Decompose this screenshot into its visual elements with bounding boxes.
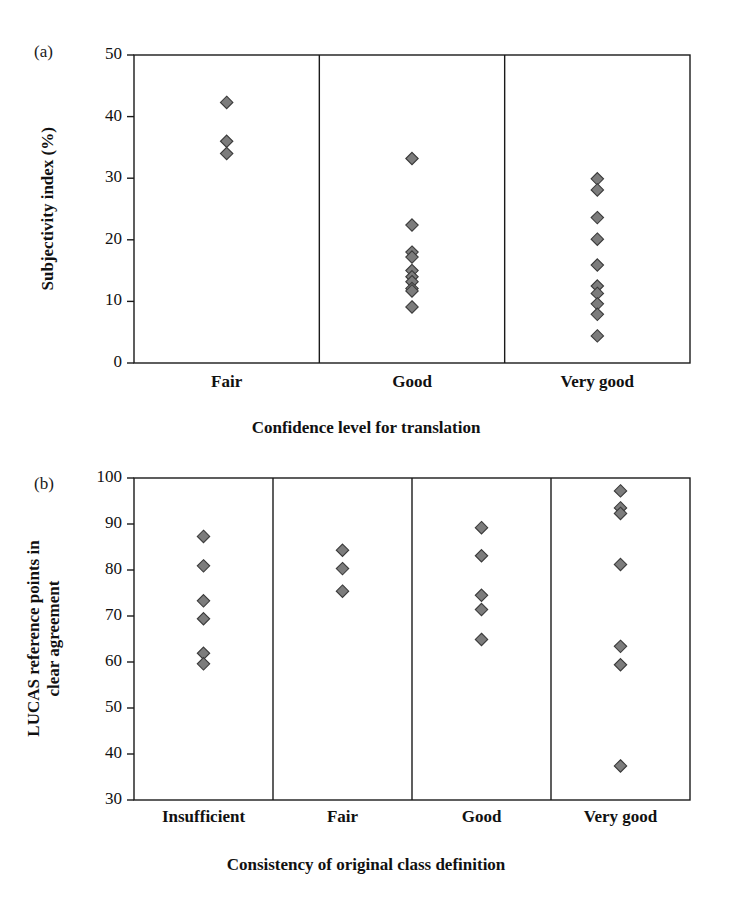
data-point-marker [220, 147, 232, 159]
y-axis-tick-label: 70 [60, 605, 122, 625]
data-point-marker [220, 96, 232, 108]
data-point-marker [220, 135, 232, 147]
series-very-good [614, 485, 626, 772]
data-point-marker [336, 562, 348, 574]
y-axis-tick-label: 80 [60, 559, 122, 579]
data-point-marker [197, 560, 209, 572]
data-point-marker [406, 152, 418, 164]
data-point-marker [475, 521, 487, 533]
y-axis-tick-label: 40 [60, 743, 122, 763]
data-point-marker [406, 219, 418, 231]
series-good [475, 521, 487, 645]
y-axis-tick-label: 90 [60, 513, 122, 533]
data-point-marker [614, 485, 626, 497]
data-point-marker [336, 544, 348, 556]
y-axis-tick-label: 20 [60, 229, 122, 249]
y-axis-tick-label: 30 [60, 789, 122, 809]
data-point-marker [197, 613, 209, 625]
y-axis-tick-label: 60 [60, 651, 122, 671]
data-point-marker [591, 233, 603, 245]
y-axis-tick-label: 50 [60, 697, 122, 717]
series-fair [220, 96, 232, 160]
y-axis-tick-label: 100 [60, 467, 122, 487]
data-point-marker [475, 589, 487, 601]
y-axis-tick-label: 0 [60, 352, 122, 372]
data-point-marker [591, 211, 603, 223]
series-very-good [591, 173, 603, 342]
data-point-marker [475, 603, 487, 615]
y-axis-tick-label: 40 [60, 106, 122, 126]
data-point-marker [614, 640, 626, 652]
data-point-marker [591, 308, 603, 320]
data-point-marker [591, 330, 603, 342]
panel-b-x-axis-label: Consistency of original class definition [0, 855, 732, 875]
data-point-marker [614, 558, 626, 570]
x-axis-category-label-very-good: Very good [511, 807, 731, 827]
figure-root: (a) Subjectivity index (%) Confidence le… [0, 0, 732, 915]
data-point-marker [336, 585, 348, 597]
series-fair [336, 544, 348, 597]
panel-b: (b) LUCAS reference points inclear agree… [0, 455, 732, 915]
data-point-marker [197, 530, 209, 542]
data-point-marker [475, 550, 487, 562]
y-axis-tick-label: 30 [60, 167, 122, 187]
data-point-marker [591, 184, 603, 196]
series-good [406, 152, 418, 313]
x-axis-category-label-very-good: Very good [487, 372, 707, 392]
data-point-marker [475, 633, 487, 645]
panel-a: (a) Subjectivity index (%) Confidence le… [0, 0, 732, 455]
y-axis-tick-label: 10 [60, 290, 122, 310]
data-point-marker [406, 301, 418, 313]
data-point-marker [614, 659, 626, 671]
y-axis-tick-label: 50 [60, 44, 122, 64]
data-point-marker [614, 760, 626, 772]
data-point-marker [197, 658, 209, 670]
plot-frame [134, 55, 690, 363]
panel-a-x-axis-label: Confidence level for translation [0, 418, 732, 438]
data-point-marker [197, 595, 209, 607]
data-point-marker [591, 259, 603, 271]
series-insufficient [197, 530, 209, 670]
